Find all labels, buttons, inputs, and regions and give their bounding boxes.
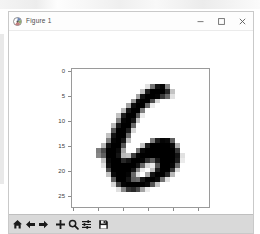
- digit-image: [72, 69, 209, 207]
- y-axis-tick: [68, 196, 71, 197]
- x-axis-tick: [123, 208, 124, 211]
- y-axis-tick-label: 5: [43, 93, 65, 99]
- zoom-button[interactable]: [67, 217, 80, 231]
- save-button[interactable]: [97, 217, 110, 231]
- forward-button[interactable]: [37, 217, 50, 231]
- y-axis-tick-label: 20: [43, 168, 65, 174]
- minimize-button[interactable]: [190, 12, 211, 30]
- x-axis-tick: [148, 208, 149, 211]
- maximize-button[interactable]: [211, 12, 232, 30]
- figure-window: Figure 1 05101520250510152025: [8, 11, 254, 234]
- close-button[interactable]: [232, 12, 253, 30]
- figure-canvas[interactable]: 05101520250510152025: [9, 31, 253, 214]
- y-axis-tick: [68, 121, 71, 122]
- desktop-left-strip: [0, 34, 4, 184]
- subplots-button[interactable]: [80, 217, 93, 231]
- window-controls: [190, 12, 253, 30]
- x-axis-tick: [173, 208, 174, 211]
- y-axis-tick-label: 15: [43, 143, 65, 149]
- pixel: [204, 202, 209, 207]
- y-axis-tick: [68, 71, 71, 72]
- y-axis-tick: [68, 96, 71, 97]
- navigation-toolbar: [9, 214, 253, 233]
- home-button[interactable]: [11, 217, 24, 231]
- pan-button[interactable]: [54, 217, 67, 231]
- matplotlib-logo-icon: [13, 17, 22, 26]
- y-axis-tick-label: 25: [43, 193, 65, 199]
- window-title: Figure 1: [26, 18, 51, 25]
- axes-image-plot[interactable]: [71, 68, 210, 208]
- title-bar[interactable]: Figure 1: [9, 12, 253, 31]
- y-axis-tick: [68, 171, 71, 172]
- x-axis-tick: [198, 208, 199, 211]
- back-button[interactable]: [24, 217, 37, 231]
- y-axis-tick-label: 10: [43, 118, 65, 124]
- y-axis-tick: [68, 146, 71, 147]
- x-axis-tick: [73, 208, 74, 211]
- x-axis-tick: [98, 208, 99, 211]
- y-axis-tick-label: 0: [43, 68, 65, 74]
- desktop-top-strip: [0, 0, 260, 9]
